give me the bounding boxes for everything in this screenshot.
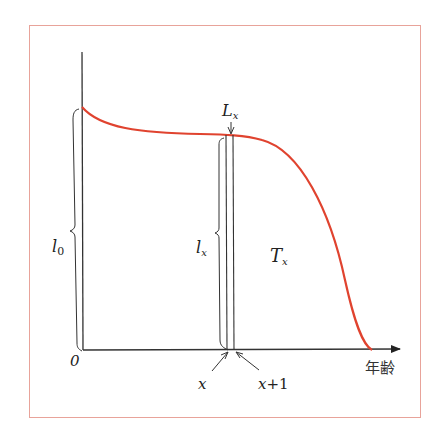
x-tick-arrow	[212, 352, 228, 371]
lx-label: lx	[196, 238, 207, 258]
x-axis-label: 年齢	[365, 359, 395, 377]
x-plus-1-tick-label: x+1	[258, 375, 289, 393]
x-tick-label: x	[198, 375, 207, 393]
Tx-label: Tx	[270, 245, 288, 267]
x-axis	[83, 349, 400, 350]
survivorship-diagram: 0 l0 lx Lx Tx x x+1 年齢	[0, 0, 442, 446]
x1-tick-arrow	[236, 352, 259, 370]
line-at-x-plus-1	[233, 135, 234, 350]
origin-label: 0	[70, 352, 80, 370]
l0-label: l0	[52, 237, 64, 258]
line-at-x	[226, 135, 227, 350]
y-axis	[82, 52, 83, 350]
l0-brace	[70, 109, 82, 351]
Lx-label: Lx	[221, 101, 239, 121]
